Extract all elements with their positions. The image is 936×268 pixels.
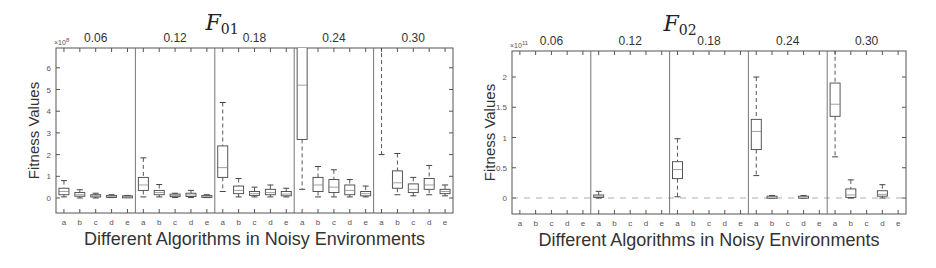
algorithm-label: c — [411, 218, 415, 227]
algorithm-label: d — [565, 219, 569, 228]
algorithm-label: b — [612, 219, 617, 228]
noise-level-label: 0.06 — [540, 34, 564, 48]
box-plot-0.12-b — [154, 185, 164, 197]
algorithm-label: e — [125, 218, 130, 227]
x-axis-label: Different Algorithms in Noisy Environmen… — [539, 230, 880, 250]
box-plot-0.18-e — [281, 188, 291, 197]
algorithm-label: d — [427, 218, 431, 227]
y-multiplier-label: ×1011 — [510, 40, 529, 49]
box-plot-0.30-a — [377, 35, 387, 154]
box-plot-0.06-c — [91, 193, 101, 198]
panel-title: F02 — [662, 11, 696, 38]
box-plot-0.30-a — [830, 50, 840, 157]
box-plot-0.30-b — [846, 180, 856, 198]
algorithm-label: a — [221, 218, 226, 227]
chart-panel-f01: F01×1080123456Fitness ValuesDifferent Al… — [25, 10, 453, 249]
noise-level-label: 0.18 — [243, 31, 267, 45]
y-axis-label: Fitness Values — [25, 82, 42, 179]
algorithm-label: d — [880, 219, 884, 228]
algorithm-label: d — [189, 218, 193, 227]
box-plot-0.30-d — [877, 185, 887, 198]
box-plot-0.24-a — [297, 35, 307, 189]
algorithm-label: a — [300, 218, 305, 227]
box-plot-0.24-d — [345, 180, 355, 197]
box-plot-0.30-b — [392, 154, 402, 195]
algorithm-label: a — [596, 219, 601, 228]
y-tick-label: 1 — [503, 134, 508, 143]
algorithm-label: d — [801, 219, 805, 228]
algorithm-label: c — [786, 219, 790, 228]
y-tick-label: 0 — [503, 194, 508, 203]
algorithm-label: a — [754, 219, 759, 228]
algorithm-label: c — [94, 218, 98, 227]
algorithm-label: c — [707, 219, 711, 228]
box-plot-0.06-a — [59, 181, 69, 197]
box-plot-0.24-d — [799, 196, 809, 199]
y-axis-label: Fitness Values — [481, 84, 498, 181]
y-multiplier-label: ×108 — [54, 37, 70, 46]
y-tick-label: 2 — [503, 73, 508, 82]
algorithm-label: a — [518, 219, 523, 228]
algorithm-label: b — [533, 219, 538, 228]
box-plot-0.12-e — [202, 195, 212, 198]
algorithm-label: d — [644, 219, 648, 228]
algorithm-label: b — [316, 218, 321, 227]
y-tick-label: 6 — [47, 64, 52, 73]
algorithm-label: e — [363, 218, 368, 227]
noise-level-label: 0.24 — [776, 34, 800, 48]
box-plot-0.12-c — [170, 193, 180, 197]
box-plot-0.06-b — [75, 190, 85, 198]
algorithm-label: a — [141, 218, 146, 227]
y-tick-label: 2 — [47, 151, 52, 160]
noise-level-label: 0.30 — [855, 34, 879, 48]
algorithm-label: d — [268, 218, 272, 227]
box-plot-0.18-b — [234, 178, 244, 196]
box-plot-0.12-d — [186, 190, 196, 197]
box-plot-0.18-d — [265, 185, 275, 197]
y-tick-label: 1 — [47, 172, 52, 181]
algorithm-label: a — [675, 219, 680, 228]
box-plot-0.30-c — [408, 177, 418, 195]
box-plot-0.24-a — [751, 77, 761, 176]
figure-canvas: F01×1080123456Fitness ValuesDifferent Al… — [0, 0, 936, 268]
algorithm-label: c — [253, 218, 257, 227]
box-plot-0.06-d — [107, 195, 117, 198]
algorithm-label: c — [628, 219, 632, 228]
algorithm-label: e — [738, 219, 743, 228]
algorithm-label: c — [173, 218, 177, 227]
noise-level-label: 0.12 — [619, 34, 643, 48]
algorithm-label: d — [109, 218, 113, 227]
algorithm-label: b — [157, 218, 162, 227]
box-plot-0.18-c — [250, 187, 260, 197]
box-plot-0.12-a — [138, 158, 148, 197]
algorithm-label: e — [443, 218, 448, 227]
x-axis-label: Different Algorithms in Noisy Environmen… — [84, 229, 425, 249]
box-plot-0.30-d — [424, 165, 434, 194]
box-plot-0.30-e — [440, 185, 450, 196]
algorithm-label: a — [62, 218, 67, 227]
box-plot-0.24-b — [313, 167, 323, 197]
box-plot-0.06-e — [122, 195, 132, 197]
y-tick-label: 4 — [47, 107, 52, 116]
box-plot-0.18-a — [218, 103, 228, 192]
y-tick-label: 5 — [47, 86, 52, 95]
noise-level-label: 0.12 — [163, 31, 187, 45]
algorithm-label: b — [770, 219, 775, 228]
algorithm-label: c — [332, 218, 336, 227]
algorithm-label: e — [896, 219, 901, 228]
box-plot-0.24-e — [361, 186, 371, 197]
algorithm-label: a — [833, 219, 838, 228]
algorithm-label: b — [849, 219, 854, 228]
algorithm-label: d — [723, 219, 727, 228]
box-plot-0.24-c — [329, 170, 339, 197]
box-plot-0.24-b — [767, 196, 777, 199]
noise-level-label: 0.18 — [697, 34, 721, 48]
y-tick-label: 0 — [47, 194, 52, 203]
algorithm-label: d — [348, 218, 352, 227]
algorithm-label: e — [284, 218, 289, 227]
algorithm-label: b — [395, 218, 400, 227]
algorithm-label: e — [817, 219, 822, 228]
algorithm-label: b — [691, 219, 696, 228]
noise-level-label: 0.06 — [84, 31, 108, 45]
algorithm-label: c — [549, 219, 553, 228]
